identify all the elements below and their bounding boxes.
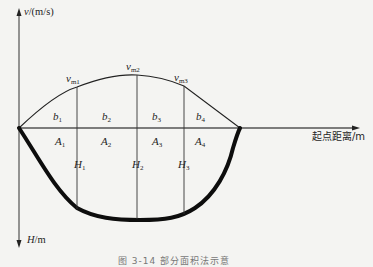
area-label-4: A4: [195, 136, 205, 149]
river-bed-curve: [19, 128, 240, 220]
area-label-3: A3: [152, 136, 162, 149]
velocity-label-1: vm1: [66, 73, 80, 86]
depth-label-1: H1: [74, 159, 85, 172]
area-label-2: A2: [101, 136, 111, 149]
width-label-2: b2: [102, 111, 111, 124]
h-axis-arrow-icon: [17, 240, 22, 248]
width-label-4: b4: [196, 111, 205, 124]
v-axis-arrow-icon: [17, 8, 22, 16]
width-label-1: b1: [53, 111, 62, 124]
distance-axis-arrow-icon: [352, 126, 360, 131]
figure-caption: 图 3-14 部分面积法示意: [118, 254, 230, 267]
distance-axis-label: 起点距离/m: [312, 132, 365, 142]
area-label-1: A1: [55, 136, 65, 149]
velocity-label-2: vm2: [126, 61, 140, 74]
width-label-3: b3: [152, 111, 161, 124]
right-bank-point: [238, 126, 241, 129]
velocity-label-3: vm3: [174, 72, 188, 85]
depth-label-2: H2: [132, 159, 143, 172]
v-axis-label: v/(m/s): [24, 7, 54, 18]
depth-label-3: H3: [178, 159, 189, 172]
h-axis-label: H/m: [27, 235, 46, 246]
origin-point: [17, 126, 20, 129]
